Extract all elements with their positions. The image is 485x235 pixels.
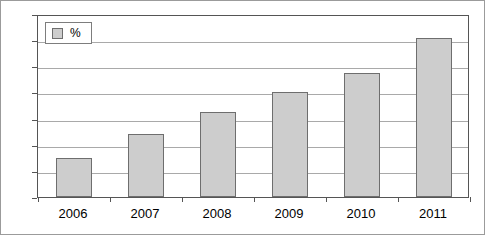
bar <box>416 38 452 197</box>
y-axis-tick <box>32 93 37 94</box>
gridline <box>38 94 468 95</box>
x-axis-tick-label: 2009 <box>275 207 304 220</box>
x-axis-tick <box>326 197 327 202</box>
x-axis-tick <box>110 197 111 202</box>
bar-chart: 02468101214 200620072008200920102011 % <box>0 0 485 235</box>
y-axis-tick <box>32 146 37 147</box>
plot-area: % <box>37 15 469 198</box>
gridline <box>38 68 468 69</box>
bar <box>56 158 92 197</box>
y-axis-tick <box>32 41 37 42</box>
bar <box>128 134 164 197</box>
y-axis-tick <box>32 198 37 199</box>
y-axis-tick <box>32 120 37 121</box>
x-axis-tick <box>470 197 471 202</box>
x-axis-tick <box>254 197 255 202</box>
x-axis-tick-label: 2006 <box>59 207 88 220</box>
bar <box>272 92 308 197</box>
gridline <box>38 147 468 148</box>
percent-swatch-icon <box>52 28 63 39</box>
bar <box>344 73 380 197</box>
x-axis-tick-label: 2011 <box>419 207 447 220</box>
x-axis-tick <box>38 197 39 202</box>
y-axis-tick <box>32 172 37 173</box>
x-axis-tick <box>182 197 183 202</box>
gridline <box>38 42 468 43</box>
x-axis-tick-label: 2007 <box>131 207 160 220</box>
x-axis-tick <box>398 197 399 202</box>
x-axis-tick-label: 2008 <box>203 207 232 220</box>
x-axis-tick-label: 2010 <box>347 207 376 220</box>
legend: % <box>45 22 92 44</box>
gridline <box>38 121 468 122</box>
y-axis-tick <box>32 67 37 68</box>
y-axis-tick <box>32 15 37 16</box>
gridline <box>38 173 468 174</box>
bar <box>200 112 236 197</box>
legend-label: % <box>70 27 81 39</box>
